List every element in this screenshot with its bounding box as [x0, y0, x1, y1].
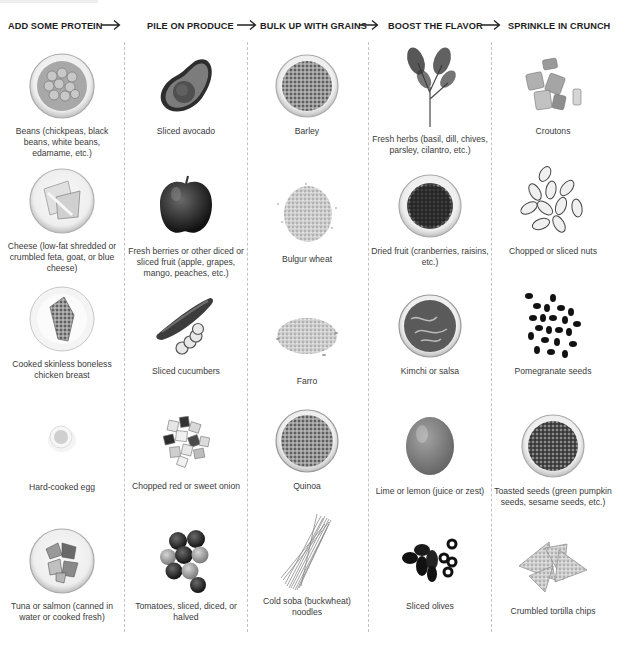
item-caption: Fresh herbs (basil, dill, chives, parsle…: [371, 134, 489, 156]
item-caption: Chopped red or sweet onion: [132, 481, 240, 492]
arrow-right-icon: [100, 18, 122, 32]
tomatoes-icon: [154, 527, 218, 595]
step-label-produce: PILE ON PRODUCE: [147, 16, 234, 36]
item-caption: Barley: [295, 126, 319, 137]
item-caption: Cheese (low-fat shredded or crumbled fet…: [3, 241, 121, 274]
arrow-right-icon: [358, 18, 380, 32]
item-caption: Croutons: [536, 126, 571, 137]
step-label-protein: ADD SOME PROTEIN: [8, 16, 103, 36]
item-herbs: Fresh herbs (basil, dill, chives, parsle…: [371, 42, 489, 156]
top-decorative-bar: [0, 0, 98, 3]
item-farro: Farro: [248, 300, 366, 387]
sliced-nuts-icon: [515, 164, 591, 240]
bulgur-pile-icon: [272, 182, 342, 246]
hard-cooked-egg-icon: [42, 418, 82, 458]
item-caption: Tomatoes, sliced, diced, or halved: [127, 601, 245, 623]
item-bulgur: Bulgur wheat: [248, 178, 366, 265]
item-chicken: Cooked skinless boneless chicken breast: [3, 283, 121, 381]
item-caption: Bulgur wheat: [282, 254, 332, 265]
jar-of-kimchi-icon: [397, 293, 463, 359]
item-croutons: Croutons: [494, 50, 612, 137]
step-label-grains: BULK UP WITH GRAINS: [260, 16, 367, 36]
cucumber-icon: [152, 292, 220, 360]
item-beans: Beans (chickpeas, black beans, white bea…: [3, 50, 121, 159]
item-caption: Kimchi or salsa: [401, 366, 459, 377]
soba-noodles-icon: [277, 512, 337, 592]
item-barley: Barley: [248, 50, 366, 137]
item-lime: Lime or lemon (juice or zest): [371, 410, 489, 497]
item-tuna: Tuna or salmon (canned in water or cooke…: [3, 525, 121, 623]
item-tomatoes: Tomatoes, sliced, diced, or halved: [127, 525, 245, 623]
column-divider: [491, 42, 492, 632]
arrow-right-icon: [480, 18, 502, 32]
item-caption: Beans (chickpeas, black beans, white bea…: [3, 126, 121, 159]
item-caption: Lime or lemon (juice or zest): [376, 486, 484, 497]
arrow-right-icon: [236, 18, 258, 32]
item-olives: Sliced olives: [371, 525, 489, 612]
tortilla-chips-icon: [515, 536, 591, 596]
item-caption: Sliced olives: [406, 601, 454, 612]
bowl-of-seeds-icon: [520, 413, 586, 479]
pomegranate-seeds-icon: [521, 290, 585, 362]
item-caption: Farro: [297, 376, 318, 387]
bowl-of-dried-fruit-icon: [397, 173, 463, 239]
item-tortilla-chips: Crumbled tortilla chips: [494, 530, 612, 617]
item-fruit: Fresh berries or other diced or sliced f…: [127, 170, 245, 279]
item-soba: Cold soba (buckwheat) noodles: [248, 512, 366, 618]
item-quinoa: Quinoa: [248, 405, 366, 492]
lime-icon: [402, 414, 458, 478]
item-caption: Dried fruit (cranberries, raisins, etc.): [371, 246, 489, 268]
bowl-of-quinoa-icon: [274, 408, 340, 474]
item-caption: Sliced avocado: [157, 126, 215, 137]
item-caption: Toasted seeds (green pumpkin seeds, sesa…: [494, 486, 612, 508]
croutons-icon: [515, 53, 591, 119]
plate-of-chicken-icon: [28, 285, 96, 353]
item-caption: Quinoa: [293, 481, 321, 492]
item-onion: Chopped red or sweet onion: [127, 405, 245, 492]
steps-header: ADD SOME PROTEIN PILE ON PRODUCE BULK UP…: [0, 16, 625, 36]
item-nuts: Chopped or sliced nuts: [494, 162, 612, 257]
apple-icon: [156, 174, 216, 238]
item-avocado: Sliced avocado: [127, 50, 245, 137]
olives-icon: [398, 536, 462, 586]
item-caption: Chopped or sliced nuts: [509, 246, 597, 257]
herb-sprig-icon: [400, 43, 460, 129]
step-label-flavor: BOOST THE FLAVOR: [388, 16, 483, 36]
item-toasted-seeds: Toasted seeds (green pumpkin seeds, sesa…: [494, 410, 612, 508]
item-cucumber: Sliced cucumbers: [127, 290, 245, 377]
item-caption: Fresh berries or other diced or sliced f…: [127, 246, 245, 279]
item-caption: Crumbled tortilla chips: [510, 606, 595, 617]
item-caption: Tuna or salmon (canned in water or cooke…: [3, 601, 121, 623]
bowl-of-tuna-icon: [28, 527, 96, 595]
column-divider: [124, 42, 125, 632]
item-pomegranate: Pomegranate seeds: [494, 290, 612, 377]
item-caption: Cold soba (buckwheat) noodles: [248, 596, 366, 618]
bowl-of-chickpeas-icon: [28, 52, 96, 120]
item-caption: Pomegranate seeds: [515, 366, 592, 377]
item-caption: Hard-cooked egg: [29, 482, 95, 493]
farro-pile-icon: [274, 313, 340, 359]
bowl-of-barley-icon: [274, 53, 340, 119]
column-divider: [368, 42, 369, 632]
avocado-half-icon: [154, 54, 218, 118]
item-caption: Cooked skinless boneless chicken breast: [3, 359, 121, 381]
item-egg: Hard-cooked egg: [3, 398, 121, 493]
item-dried-fruit: Dried fruit (cranberries, raisins, etc.): [371, 170, 489, 268]
step-label-crunch: SPRINKLE IN CRUNCH: [508, 16, 610, 36]
item-caption: Sliced cucumbers: [152, 366, 220, 377]
chopped-onion-icon: [154, 409, 218, 473]
bowl-of-cheese-icon: [28, 167, 96, 235]
item-cheese: Cheese (low-fat shredded or crumbled fet…: [3, 165, 121, 274]
item-kimchi: Kimchi or salsa: [371, 290, 489, 377]
